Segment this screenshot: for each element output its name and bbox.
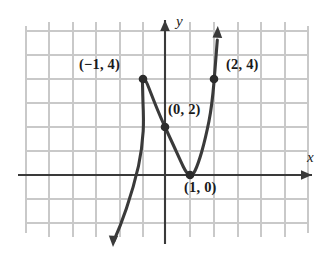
y-axis-label: y	[176, 14, 183, 29]
point-x-intercept	[186, 171, 195, 180]
label-local-max: (−1, 4)	[79, 57, 120, 72]
coordinate-plane	[0, 0, 331, 261]
point-y-intercept	[161, 123, 170, 132]
graph-figure: (−1, 4) (0, 2) (1, 0) (2, 4) y x	[0, 0, 331, 261]
label-x-intercept: (1, 0)	[184, 180, 217, 195]
point-local-max	[139, 75, 148, 84]
label-y-intercept: (0, 2)	[168, 102, 201, 117]
point-right	[210, 75, 219, 84]
x-axis-label: x	[307, 150, 314, 165]
label-right-point: (2, 4)	[226, 57, 259, 72]
curve-arrow-down	[109, 236, 118, 248]
